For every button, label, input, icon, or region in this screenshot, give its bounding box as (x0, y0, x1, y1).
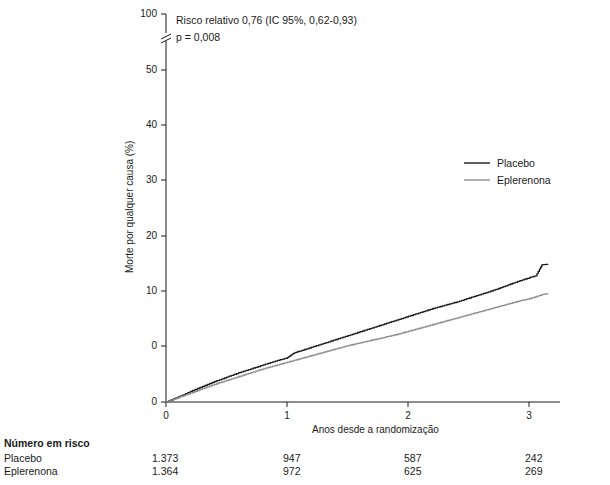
risk-value-placebo-2: 587 (404, 452, 422, 464)
risk-value-eplerenona-0: 1.364 (152, 465, 178, 477)
y-tick-label-0: 0 (131, 397, 157, 407)
risk-row-label-placebo: Placebo (4, 452, 42, 464)
y-tick-label-50: 40 (131, 120, 157, 130)
y-tick-label-20: 10 (131, 286, 157, 296)
risk-value-placebo-0: 1.373 (152, 452, 178, 464)
x-axis-title: Anos desde a randomização (312, 425, 439, 435)
risk-value-eplerenona-2: 625 (404, 465, 422, 477)
risk-value-placebo-3: 242 (525, 452, 543, 464)
x-tick-label-0: 0 (154, 411, 178, 421)
risk-value-placebo-1: 947 (283, 452, 301, 464)
x-tick-label-2: 2 (396, 411, 420, 421)
y-tick-label-10: 0 (131, 341, 157, 351)
annotation-hazard-ratio: Risco relativo 0,76 (IC 95%, 0,62-0,93) (176, 14, 357, 27)
risk-row-label-eplerenona: Eplerenona (4, 465, 58, 477)
series-line-eplerenona (166, 294, 548, 403)
risk-value-eplerenona-3: 269 (525, 465, 543, 477)
legend-label-eplerenona: Eplerenona (497, 174, 551, 186)
survival-chart: 100 50 40 30 20 10 0 0 0 1 2 3 Anos desd… (0, 0, 610, 485)
series-line-placebo (166, 264, 548, 402)
y-tick-label-60: 50 (131, 65, 157, 75)
y-axis-title: Morte por qualquer causa (%) (124, 141, 135, 273)
risk-table-title: Número em risco (4, 437, 90, 449)
y-tick-label-100: 100 (131, 9, 157, 19)
x-tick-label-3: 3 (517, 411, 541, 421)
risk-value-eplerenona-1: 972 (283, 465, 301, 477)
x-tick-label-1: 1 (275, 411, 299, 421)
annotation-p-value: p = 0,008 (176, 31, 220, 44)
legend-label-placebo: Placebo (497, 157, 535, 169)
